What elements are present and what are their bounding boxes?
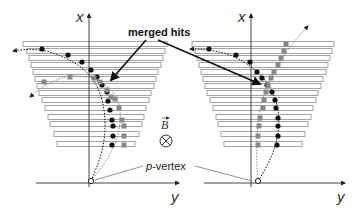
detector-layer-bar: [42, 98, 149, 103]
detector-layer-bar: [216, 115, 311, 120]
hit-point-black: [269, 89, 274, 94]
detector-layer-bar: [23, 42, 167, 47]
hit-point-gray: [105, 88, 110, 93]
detector-layer-bar: [33, 70, 158, 75]
hit-point-gray: [266, 83, 271, 88]
detector-layer-bar: [192, 42, 334, 47]
hit-point-black: [273, 105, 278, 110]
hit-point-black: [259, 75, 264, 80]
hit-point-gray: [256, 143, 261, 148]
hit-point-gray: [68, 75, 73, 80]
hit-point-gray: [98, 80, 103, 85]
hit-point-gray: [279, 56, 284, 61]
hit-point-gray: [122, 124, 127, 129]
hit-point-black: [79, 59, 84, 64]
merged-hits-label: merged hits: [128, 26, 190, 38]
hit-point-gray: [92, 76, 97, 81]
hit-point-black: [206, 46, 211, 51]
detector-layer-bar: [207, 91, 318, 96]
hit-point-black: [275, 115, 280, 120]
detector-layer-bar: [48, 115, 144, 120]
hit-point-black: [39, 46, 44, 51]
hit-point-gray: [42, 80, 47, 85]
detector-layer-bar: [197, 56, 330, 61]
detector-layer-bar: [29, 56, 163, 61]
hit-point-black: [275, 133, 280, 138]
hit-point-gray: [117, 106, 122, 111]
x-axis-label: x: [75, 8, 84, 25]
p-vertex-label: p-vertex: [145, 160, 186, 172]
hit-point-black: [272, 97, 277, 102]
hit-point-gray: [284, 42, 289, 47]
hit-point-black: [275, 123, 280, 128]
hit-point-gray: [272, 70, 277, 75]
hit-point-black: [88, 67, 93, 72]
hit-point-gray: [261, 106, 266, 111]
hit-point-gray: [264, 90, 269, 95]
hit-point-gray: [262, 98, 267, 103]
p-vertex-leader-line: [195, 166, 252, 181]
hit-point-black: [109, 117, 114, 122]
detector-layer-bar: [37, 84, 154, 89]
detector-layer-bar: [221, 132, 305, 137]
hit-point-black: [274, 142, 279, 147]
x-axis-label: x: [237, 8, 246, 25]
hit-point-gray: [122, 134, 127, 139]
hit-point-gray: [120, 118, 125, 123]
hit-point-black: [110, 133, 115, 138]
p-vertex-marker: [255, 178, 260, 183]
detector-layer-bar: [218, 122, 308, 127]
hit-point-gray: [282, 49, 287, 54]
b-field-into-page-icon: [160, 135, 172, 147]
hit-point-gray: [258, 116, 263, 121]
hit-point-gray: [113, 97, 118, 102]
right-panel: xy: [190, 8, 346, 205]
hit-point-black: [110, 123, 115, 128]
detector-layer-bar: [31, 63, 161, 68]
p-vertex-marker: [88, 178, 93, 183]
b-field-label: B: [161, 118, 169, 132]
merged-hits-diagram: xy xy merged hits B p-vertex: [0, 0, 357, 211]
p-vertex-leader-line: [95, 166, 143, 180]
detector-layer-bar: [205, 84, 321, 89]
detector-layer-bar: [195, 49, 332, 54]
hit-point-gray: [276, 63, 281, 68]
p-vertex-label-rest: -vertex: [152, 160, 186, 172]
hit-point-gray: [256, 134, 261, 139]
hit-point-gray: [122, 143, 127, 148]
y-axis-label: y: [336, 188, 346, 205]
hit-point-gray: [269, 76, 274, 81]
detector-layer-bar: [224, 142, 302, 147]
y-axis-label: y: [170, 188, 180, 205]
hit-point-black: [247, 59, 252, 64]
detector-layer-bar: [201, 70, 326, 75]
detector-layer-bar: [39, 91, 151, 96]
hit-point-black: [65, 52, 70, 57]
detector-layer-bar: [50, 122, 142, 127]
hit-point-gray: [257, 124, 262, 129]
hit-point-black: [254, 69, 259, 74]
p-vertex-label-p: p: [145, 160, 152, 172]
hit-point-black: [233, 52, 238, 57]
hit-point-black: [107, 107, 112, 112]
detector-layer-bar: [45, 106, 146, 111]
